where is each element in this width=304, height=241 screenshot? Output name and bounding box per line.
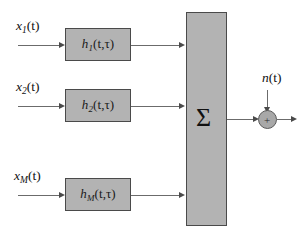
wire-input-1-to-filter-1: [18, 45, 63, 46]
noise-argument: (t): [269, 70, 282, 85]
arrowhead-sum-input-1: [179, 42, 185, 48]
sigma-symbol: Σ: [196, 105, 211, 131]
filter-block-1[interactable]: h1(t,τ): [65, 28, 131, 61]
wire-filter-1-to-sum: [131, 45, 180, 46]
wire-input-2-to-filter-2: [18, 106, 63, 107]
filter-M-label: hM(t,τ): [80, 186, 115, 203]
arrowhead-output: [291, 116, 297, 122]
wire-filter-2-to-sum: [131, 106, 180, 107]
filter-1-argument: (t,τ): [93, 36, 114, 51]
filter-2-argument: (t,τ): [93, 97, 114, 112]
input-M-argument: (t): [28, 168, 41, 183]
noise-label: n(t): [262, 70, 282, 86]
input-label-1: x1(t): [16, 18, 40, 35]
input-M-subscript: M: [20, 175, 28, 185]
input-2-argument: (t): [27, 79, 40, 94]
adder-plus-symbol: +: [264, 115, 270, 126]
filter-M-base: h: [80, 186, 87, 201]
input-1-argument: (t): [27, 18, 40, 33]
wire-filter-M-to-sum: [131, 195, 180, 196]
filter-2-label: h2(t,τ): [82, 97, 114, 114]
input-label-2: x2(t): [16, 79, 40, 96]
arrowhead-sum-input-M: [179, 192, 185, 198]
input-label-M: xM(t): [14, 168, 41, 185]
arrowhead-sum-input-2: [179, 103, 185, 109]
filter-M-argument: (t,τ): [94, 186, 115, 201]
block-diagram-canvas: x1(t) h1(t,τ) x2(t) h2(t,τ) xM(t) hM(t,τ…: [0, 0, 304, 241]
filter-1-label: h1(t,τ): [82, 36, 114, 53]
wire-input-M-to-filter-M: [18, 195, 63, 196]
filter-block-2[interactable]: h2(t,τ): [65, 89, 131, 122]
noise-base: n: [262, 70, 269, 85]
filter-block-M[interactable]: hM(t,τ): [65, 178, 131, 211]
